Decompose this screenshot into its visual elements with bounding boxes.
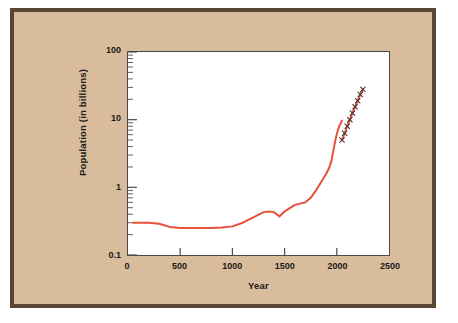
y-tick-label: 10 [81,113,121,123]
x-tick-label: 500 [160,261,200,271]
y-tick-label: 0.1 [81,250,121,260]
x-axis-title: Year [127,280,390,291]
x-tick-label: 2000 [317,261,357,271]
x-tick-label: 0 [107,261,147,271]
figure-panel: Population (in billions) Year 0.1110100 … [10,8,436,308]
y-axis-major-ticks [128,52,137,255]
y-axis-minor-ticks [128,55,133,235]
x-axis-major-ticks [180,248,337,255]
x-tick-label: 2500 [370,261,410,271]
y-tick-label: 1 [81,182,121,192]
series-historical-line [133,121,342,229]
plot-area [127,51,390,256]
y-tick-label: 100 [81,45,121,55]
chart-canvas [128,52,389,255]
x-tick-label: 1500 [265,261,305,271]
x-tick-label: 1000 [212,261,252,271]
